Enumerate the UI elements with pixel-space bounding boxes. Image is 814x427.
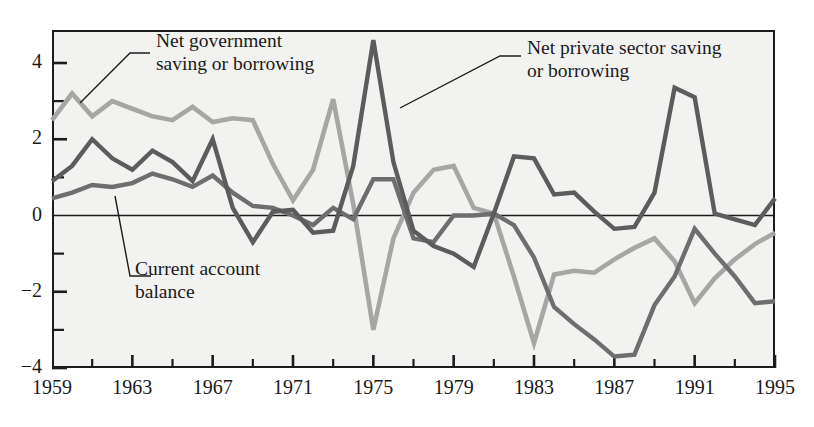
annotation-net-private: Net private sector savingor borrowing (527, 36, 721, 82)
chart-root: 420−2−4195919631967197119751979198319871… (0, 0, 814, 427)
leader-net-private (400, 56, 521, 108)
leader-net-government (80, 53, 150, 103)
annotation-current-account: Current accountbalance (135, 257, 260, 303)
annotation-net-government-line1: Net government (156, 30, 282, 51)
annotation-net-government-line2: saving or borrowing (156, 53, 314, 74)
annotation-net-private-line1: Net private sector saving (527, 37, 721, 58)
annotation-current-account-line1: Current account (135, 258, 260, 279)
annotation-net-private-line2: or borrowing (527, 60, 629, 81)
annotation-current-account-line2: balance (135, 281, 195, 302)
annotation-net-government: Net governmentsaving or borrowing (156, 29, 314, 75)
